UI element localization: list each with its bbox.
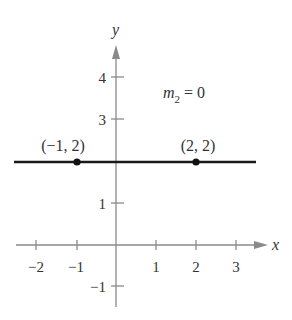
y-axis-arrow-icon <box>112 45 120 59</box>
point-label-2-2: (2, 2) <box>181 137 216 155</box>
y-axis-label: y <box>110 21 120 39</box>
point-label-neg1-2: (−1, 2) <box>41 137 85 155</box>
y-tick-label: 3 <box>99 112 107 128</box>
x-tick-label: 1 <box>152 259 160 275</box>
x-tick-label: 3 <box>232 259 240 275</box>
x-tick-label: −1 <box>68 259 84 275</box>
y-axis <box>111 52 124 307</box>
x-axis <box>16 240 256 250</box>
slope-annotation: m2 = 0 <box>163 84 205 105</box>
y-tick-label: 4 <box>99 70 107 86</box>
y-tick-label: 1 <box>99 196 107 212</box>
x-tick-label: 2 <box>192 259 200 275</box>
x-tick-label: −2 <box>28 259 44 275</box>
point-2-2 <box>192 158 199 165</box>
x-axis-label: x <box>271 236 279 253</box>
slope-m: m <box>163 84 175 101</box>
slope-value: = 0 <box>180 84 205 101</box>
point-neg1-2 <box>73 158 80 165</box>
svg-text:m2 = 0: m2 = 0 <box>163 84 205 105</box>
y-tick-label: −1 <box>90 279 106 295</box>
coordinate-plane: y x −2 −1 1 2 3 4 3 1 −1 (−1, 2) (2, 2) … <box>0 0 292 320</box>
x-axis-arrow-icon <box>254 241 268 249</box>
